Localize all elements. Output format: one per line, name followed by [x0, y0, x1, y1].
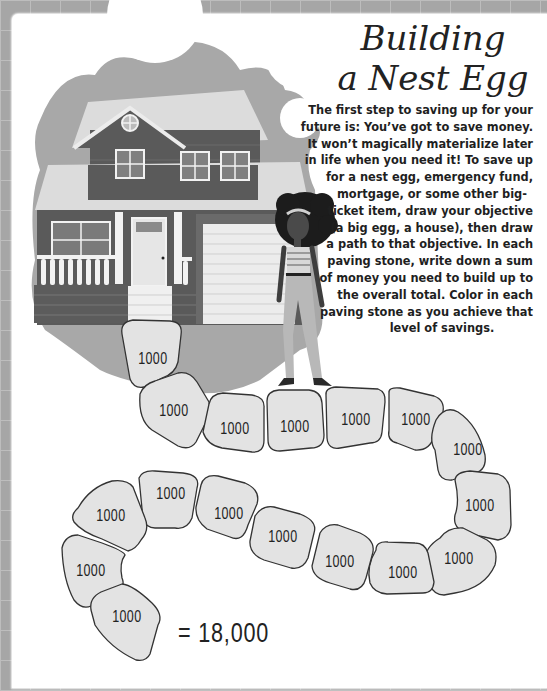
stone-value[interactable]: 1000: [401, 411, 430, 429]
stone-value[interactable]: 1000: [96, 507, 125, 525]
stone-value[interactable]: 1000: [76, 562, 105, 580]
stone-value[interactable]: 1000: [214, 505, 243, 523]
instruction-line: the overall total. Color in each: [271, 287, 533, 304]
instruction-line: of money you need to build up to: [271, 270, 533, 287]
instruction-line: The first step to saving up for your: [271, 102, 533, 119]
instruction-line: paving stone, write down a sum: [271, 253, 533, 270]
instructions-paragraph: The first step to saving up for your fut…: [271, 102, 533, 337]
stone-value[interactable]: 1000: [220, 420, 249, 438]
instruction-line: ticket item, draw your objective: [271, 203, 533, 220]
stone-value[interactable]: 1000: [280, 418, 309, 436]
stone-value[interactable]: 1000: [341, 411, 370, 429]
stone-value[interactable]: 1000: [453, 441, 482, 459]
stone-value[interactable]: 1000: [159, 402, 188, 420]
instruction-line: It won’t magically materialize later: [271, 136, 533, 153]
stone-value[interactable]: 1000: [112, 608, 141, 626]
instruction-line: future is: You’ve got to save money.: [271, 119, 533, 136]
stone-value[interactable]: 1000: [444, 550, 473, 568]
title-line-1: Building: [333, 18, 533, 58]
instruction-line: mortgage, or some other big-: [271, 186, 533, 203]
instruction-line: for a nest egg, emergency fund,: [271, 169, 533, 186]
savings-total: = 18,000: [178, 618, 269, 649]
stone-value[interactable]: 1000: [325, 553, 354, 571]
stone-value[interactable]: 1000: [268, 528, 297, 546]
stone-value[interactable]: 1000: [465, 497, 494, 515]
instruction-line: in life when you need it! To save up: [271, 152, 533, 169]
instruction-line: paving stone as you achieve that: [271, 304, 533, 321]
stone-value[interactable]: 1000: [156, 485, 185, 503]
page-title: Building a Nest Egg: [333, 18, 533, 98]
stone-value[interactable]: 1000: [138, 350, 167, 368]
stone-value[interactable]: 1000: [388, 564, 417, 582]
instruction-line: level of savings.: [271, 320, 533, 337]
title-line-2: a Nest Egg: [333, 58, 533, 98]
instruction-line: (a big egg, a house), then draw: [271, 220, 533, 237]
instruction-line: a path to that objective. In each: [271, 236, 533, 253]
